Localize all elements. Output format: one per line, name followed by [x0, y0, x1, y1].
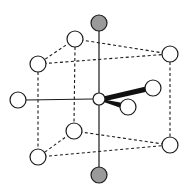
atom-bottom-right: [162, 137, 178, 153]
atom-bottom-front-left: [30, 149, 46, 165]
atom-axial-top: [91, 15, 107, 31]
edge-bottom-front-left-to-bottom-right: [38, 145, 170, 157]
solid-bonds: [26, 31, 99, 167]
atom-ligand-lower: [120, 99, 136, 115]
atom-left: [10, 92, 26, 108]
diagram-canvas: [0, 0, 189, 196]
edge-top-front-left-to-top-right: [38, 54, 170, 64]
atom-ligand-upper: [145, 80, 161, 96]
edge-vertical-back: [74, 47, 75, 123]
bond-left: [26, 99, 93, 100]
edge-top-back-to-top-right: [75, 39, 170, 54]
coordination-diagram: [0, 0, 189, 196]
atom-top-back: [67, 31, 83, 47]
atom-center: [93, 93, 105, 105]
atom-axial-bottom: [91, 167, 107, 183]
edge-bottom-back-to-bottom-right: [74, 131, 170, 145]
atom-top-right: [162, 46, 178, 62]
atom-top-front-left: [30, 56, 46, 72]
atom-bottom-back: [66, 123, 82, 139]
atoms: [10, 15, 178, 183]
